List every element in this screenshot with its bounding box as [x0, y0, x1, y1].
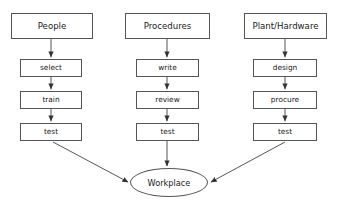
node-label: test — [278, 128, 292, 135]
node-plant-hardware-header[interactable]: Plant/Hardware — [244, 13, 327, 39]
node-plant-hardware-step-test[interactable]: test — [253, 123, 317, 141]
node-label: Plant/Hardware — [252, 22, 318, 31]
node-label: select — [40, 64, 62, 71]
node-workplace[interactable]: Workplace — [130, 168, 208, 197]
node-label: write — [158, 64, 177, 71]
node-label: review — [155, 96, 179, 103]
node-procedures-step-write[interactable]: write — [136, 59, 199, 77]
node-people-step-test[interactable]: test — [20, 123, 82, 141]
node-procedures-step-review[interactable]: review — [136, 91, 199, 109]
connector-people-test-to-workplace — [53, 142, 128, 182]
node-label: procure — [271, 96, 299, 103]
process-flow-diagram: People select train test Procedures writ… — [0, 0, 337, 211]
node-procedures-step-test[interactable]: test — [136, 123, 199, 141]
node-label: train — [42, 96, 59, 103]
node-label: design — [273, 64, 298, 71]
node-label: Workplace — [148, 178, 191, 188]
node-plant-hardware-step-design[interactable]: design — [253, 59, 317, 77]
node-people-header[interactable]: People — [11, 13, 93, 39]
node-label: test — [44, 128, 58, 135]
node-people-step-train[interactable]: train — [20, 91, 82, 109]
connector-plant-test-to-workplace — [211, 142, 285, 182]
node-plant-hardware-step-procure[interactable]: procure — [253, 91, 317, 109]
node-label: test — [160, 128, 174, 135]
node-people-step-select[interactable]: select — [20, 59, 82, 77]
node-label: Procedures — [144, 22, 192, 31]
node-procedures-header[interactable]: Procedures — [125, 13, 210, 39]
node-label: People — [38, 22, 67, 31]
